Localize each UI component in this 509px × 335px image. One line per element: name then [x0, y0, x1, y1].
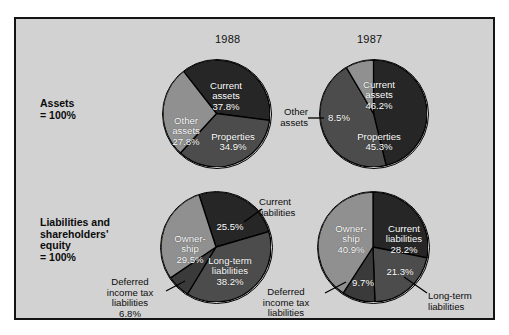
year-heading-1987: 1987 — [357, 33, 382, 45]
callout-other-assets-1987: Other assets — [264, 107, 308, 128]
pie-chart-assets-1987 — [319, 59, 429, 169]
callout-current-liabilities-1988: Current liabilities — [259, 197, 331, 218]
pie-chart-liabilities-1987 — [317, 191, 430, 304]
row-label-assets: Assets = 100% — [40, 98, 76, 121]
callout-deferred-income-tax-liabilities-1988: Deferred income tax liabilities 6.8% — [92, 277, 168, 319]
figure-panel: 1988 1987 Assets = 100% Liabilities and … — [14, 17, 495, 320]
callout-deferred-income-tax-liabilities-1987: Deferred income tax liabilities — [245, 287, 327, 319]
row-label-liabilities-equity: Liabilities and shareholders' equity = 1… — [40, 217, 110, 263]
pie-chart-assets-1988 — [162, 59, 272, 169]
year-heading-1988: 1988 — [215, 33, 240, 45]
callout-long-term-liabilities-1987: Long-term liabilities — [428, 291, 490, 312]
